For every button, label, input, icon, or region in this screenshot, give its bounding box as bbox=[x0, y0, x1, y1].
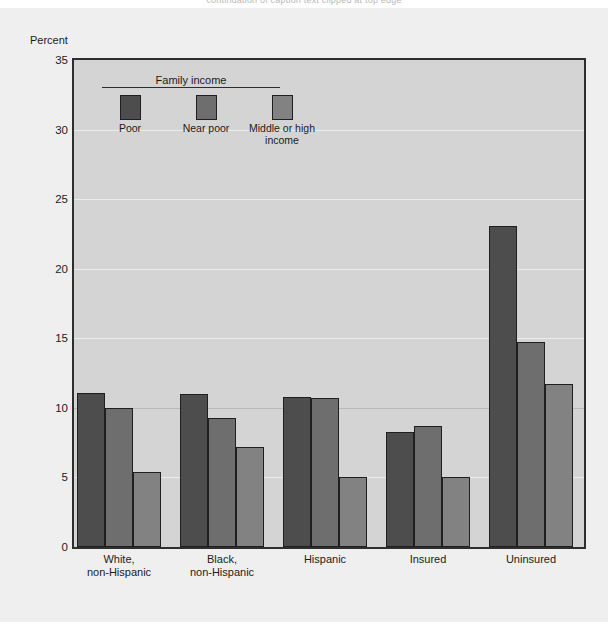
chart-figure: Percent 05101520253035 Family income Poo… bbox=[0, 8, 608, 622]
bar bbox=[517, 342, 545, 547]
legend-swatch-poor bbox=[120, 95, 141, 120]
legend: Family income Poor Near poor Middle or h… bbox=[92, 74, 332, 146]
bar bbox=[386, 432, 414, 547]
legend-swatch-middle-high bbox=[272, 95, 293, 120]
y-axis-tick-label: 20 bbox=[24, 263, 68, 275]
legend-label: Middle or high income bbox=[244, 123, 320, 146]
bar bbox=[489, 226, 517, 547]
clipped-caption-strip: continuation of caption text clipped at … bbox=[0, 0, 608, 7]
legend-swatch-near-poor bbox=[196, 95, 217, 120]
x-axis-category-label: White, non-Hispanic bbox=[87, 553, 151, 578]
legend-label: Poor bbox=[92, 123, 168, 135]
x-axis-category-label: Uninsured bbox=[506, 553, 556, 566]
y-axis-tick-label: 30 bbox=[24, 124, 68, 136]
legend-item: Poor bbox=[92, 95, 168, 135]
legend-title: Family income bbox=[102, 74, 280, 87]
bar bbox=[77, 393, 105, 547]
gridline bbox=[74, 199, 584, 200]
y-axis-tick-labels: 05101520253035 bbox=[0, 8, 68, 622]
y-axis-tick-label: 15 bbox=[24, 332, 68, 344]
bar bbox=[414, 426, 442, 547]
legend-item: Middle or high income bbox=[244, 95, 320, 146]
y-axis-tick-label: 5 bbox=[24, 471, 68, 483]
bar bbox=[339, 477, 367, 547]
bar bbox=[208, 418, 236, 547]
y-axis-tick-label: 0 bbox=[24, 541, 68, 553]
x-axis-category-label: Insured bbox=[410, 553, 447, 566]
legend-label: Near poor bbox=[168, 123, 244, 135]
legend-item: Near poor bbox=[168, 95, 244, 135]
plot-area: Family income Poor Near poor Middle or h… bbox=[72, 58, 586, 549]
bar bbox=[442, 477, 470, 547]
y-axis-tick-label: 10 bbox=[24, 402, 68, 414]
x-axis-category-label: Hispanic bbox=[304, 553, 346, 566]
legend-rule bbox=[102, 87, 280, 88]
bar bbox=[236, 447, 264, 547]
clipped-caption-text: continuation of caption text clipped at … bbox=[206, 0, 401, 5]
y-axis-tick-label: 35 bbox=[24, 54, 68, 66]
bar bbox=[180, 394, 208, 547]
x-axis-category-label: Black, non-Hispanic bbox=[190, 553, 254, 578]
bar bbox=[311, 398, 339, 547]
bar bbox=[283, 397, 311, 547]
bar bbox=[105, 408, 133, 547]
bar bbox=[545, 384, 573, 547]
legend-items: Poor Near poor Middle or high income bbox=[92, 95, 332, 146]
x-axis-category-labels: White, non-HispanicBlack, non-HispanicHi… bbox=[72, 553, 586, 593]
y-axis-tick-label: 25 bbox=[24, 193, 68, 205]
bar bbox=[133, 472, 161, 547]
